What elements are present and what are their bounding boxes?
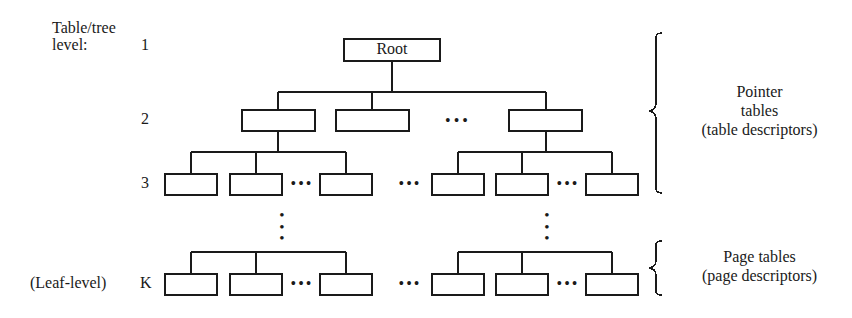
node-root-label: Root bbox=[344, 40, 440, 58]
brace-pointer-tables bbox=[649, 33, 662, 193]
node-level2-3 bbox=[509, 110, 582, 131]
ellipsis-levelk-left-inner: ••• bbox=[284, 275, 320, 293]
annotation-page-tables-line2: (page descriptors) bbox=[672, 267, 847, 286]
node-levelk-1 bbox=[165, 274, 217, 295]
annotation-pointer-tables: Pointer tables (table descriptors) bbox=[672, 83, 847, 140]
leaf-level-prefix-label: (Leaf-level) bbox=[30, 274, 106, 292]
diagram-canvas: Table/tree level: 1 2 3 (Leaf-level) K R… bbox=[0, 0, 852, 318]
node-level2-2 bbox=[336, 110, 409, 131]
brace-page-tables bbox=[649, 241, 662, 295]
ellipsis-level3-left-inner: ••• bbox=[284, 175, 320, 193]
node-level3-1 bbox=[165, 174, 217, 195]
vertical-ellipsis-left: • • • bbox=[275, 210, 289, 245]
vertical-ellipsis-right-dot-3: • bbox=[540, 233, 554, 245]
level-number-1: 1 bbox=[131, 36, 159, 54]
annotation-pointer-tables-line1: Pointer bbox=[672, 83, 847, 102]
vertical-ellipsis-right: • • • bbox=[540, 210, 554, 245]
table-tree-level-label-line1: Table/tree bbox=[52, 19, 116, 37]
ellipsis-level2: ••• bbox=[433, 112, 483, 130]
ellipsis-level3-right-inner: ••• bbox=[550, 175, 586, 193]
annotation-page-tables-line1: Page tables bbox=[672, 248, 847, 267]
node-levelk-5 bbox=[496, 274, 548, 295]
node-level3-6 bbox=[586, 174, 638, 195]
node-levelk-2 bbox=[230, 274, 282, 295]
annotation-pointer-tables-line3: (table descriptors) bbox=[672, 121, 847, 140]
level-number-3: 3 bbox=[131, 174, 159, 192]
level-number-k: K bbox=[140, 274, 152, 292]
ellipsis-level3-between: ••• bbox=[388, 175, 432, 193]
node-level3-3 bbox=[320, 174, 372, 195]
annotation-page-tables: Page tables (page descriptors) bbox=[672, 248, 847, 286]
ellipsis-levelk-between: ••• bbox=[388, 275, 432, 293]
table-tree-level-label-line2: level: bbox=[52, 36, 88, 54]
node-level3-5 bbox=[496, 174, 548, 195]
node-level3-2 bbox=[230, 174, 282, 195]
annotation-pointer-tables-line2: tables bbox=[672, 102, 847, 121]
node-level2-1 bbox=[242, 110, 315, 131]
vertical-ellipsis-left-dot-3: • bbox=[275, 233, 289, 245]
level-number-2: 2 bbox=[131, 110, 159, 128]
node-levelk-4 bbox=[432, 274, 484, 295]
node-levelk-3 bbox=[320, 274, 372, 295]
node-level3-4 bbox=[432, 174, 484, 195]
node-levelk-6 bbox=[586, 274, 638, 295]
ellipsis-levelk-right-inner: ••• bbox=[550, 275, 586, 293]
